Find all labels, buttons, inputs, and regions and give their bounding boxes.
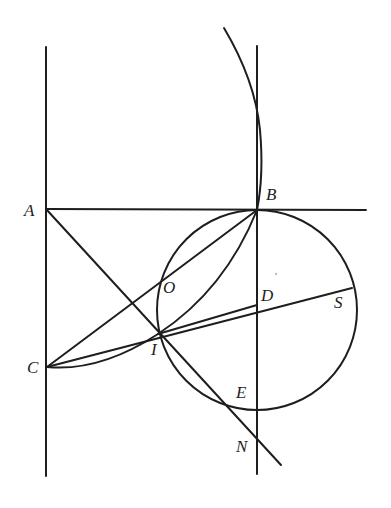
label-c: C [27,358,39,377]
label-b: B [266,185,277,204]
arc-top [224,28,261,210]
label-i: I [150,340,158,359]
label-e: E [235,383,247,402]
horizontal-line-ab [46,209,366,210]
label-n: N [235,437,249,456]
label-o: O [163,278,175,297]
label-s: S [334,293,343,312]
label-d-prime: ′ [275,271,277,282]
label-a: A [23,201,35,220]
line-i-d [158,305,257,334]
label-d: D [260,286,274,305]
geometry-diagram: A B C D ′ E I N O S [0,0,391,508]
